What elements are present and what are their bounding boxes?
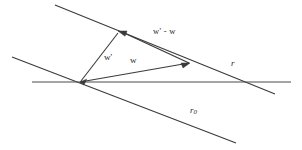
line-r-zero (12, 57, 236, 143)
label-w-prime-minus-w: w' - w (153, 27, 176, 36)
vector-w-shaft (80, 63, 189, 82)
vector-diagram: w' - w w' w r r0 (0, 0, 302, 150)
label-r-zero: r0 (190, 106, 197, 116)
vector-w-arrowhead (181, 63, 190, 68)
vector-w-prime-shaft (81, 33, 118, 81)
label-r: r (231, 59, 235, 68)
vector-w-prime-minus-w-arrowhead (118, 31, 127, 36)
diagram-canvas (0, 0, 302, 150)
label-r-zero-subscript: 0 (194, 108, 198, 116)
label-w-prime: w' (104, 53, 112, 62)
label-w: w (130, 56, 137, 65)
